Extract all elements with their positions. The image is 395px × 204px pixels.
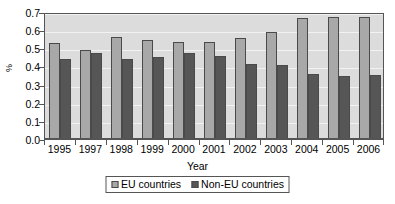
- y-tick-label: 0.7: [25, 8, 40, 19]
- bar: [370, 75, 381, 139]
- y-tick-label: 0.5: [25, 44, 40, 55]
- x-axis-tick-labels: 1995199719981999200020012002200320042005…: [44, 144, 384, 158]
- y-axis-title: %: [4, 64, 14, 72]
- x-tick-label: 1995: [48, 144, 71, 155]
- bar: [297, 18, 308, 139]
- bar-group: [76, 14, 107, 139]
- bar: [215, 56, 226, 139]
- bar: [266, 32, 277, 139]
- bar: [122, 59, 133, 139]
- legend-label: EU countries: [121, 179, 181, 190]
- y-tick-label: 0.0: [25, 135, 40, 146]
- bar: [60, 59, 71, 139]
- bar: [111, 37, 122, 140]
- bar: [91, 53, 102, 139]
- bar: [359, 17, 370, 139]
- bar-group: [354, 14, 385, 139]
- bar-group: [45, 14, 76, 139]
- bar-group: [292, 14, 323, 139]
- x-tick-label: 2004: [295, 144, 318, 155]
- x-tick-label: 2000: [171, 144, 194, 155]
- bar-group: [323, 14, 354, 139]
- x-tick-label: 2002: [233, 144, 256, 155]
- x-axis-title: Year: [0, 160, 395, 172]
- y-tick-label: 0.1: [25, 117, 40, 128]
- bar-group: [261, 14, 292, 139]
- bar: [339, 76, 350, 140]
- legend-swatch-icon: [111, 181, 118, 188]
- legend-label: Non-EU countries: [201, 179, 284, 190]
- bar: [328, 17, 339, 139]
- bar-group: [200, 14, 231, 139]
- x-tick-label: 2001: [202, 144, 225, 155]
- y-tick-label: 0.6: [25, 26, 40, 37]
- chart-legend: EU countriesNon-EU countries: [105, 176, 290, 193]
- bar-group: [107, 14, 138, 139]
- bar: [173, 42, 184, 139]
- bar: [235, 38, 246, 139]
- bar: [246, 64, 257, 139]
- bar-group: [138, 14, 169, 139]
- bar: [80, 50, 91, 139]
- x-tick-label: 2005: [326, 144, 349, 155]
- x-tick-label: 2003: [264, 144, 287, 155]
- bar-chart: % 0.00.10.20.30.40.50.60.7 1995199719981…: [0, 0, 395, 204]
- bar: [204, 42, 215, 139]
- bars-layer: [45, 14, 383, 139]
- x-tick-label: 2006: [357, 144, 380, 155]
- bar: [153, 57, 164, 139]
- legend-item: EU countries: [111, 179, 181, 190]
- x-axis-baseline: [45, 138, 383, 139]
- bar-group: [230, 14, 261, 139]
- bar: [184, 53, 195, 139]
- y-tick-label: 0.4: [25, 62, 40, 73]
- legend-swatch-icon: [191, 181, 198, 188]
- bar: [49, 43, 60, 139]
- y-tick-label: 0.2: [25, 98, 40, 109]
- x-tick-label: 1998: [110, 144, 133, 155]
- x-tick-label: 1999: [140, 144, 163, 155]
- y-tick-label: 0.3: [25, 80, 40, 91]
- x-tick-label: 1997: [79, 144, 102, 155]
- bar: [308, 74, 319, 139]
- bar: [142, 40, 153, 139]
- bar: [277, 65, 288, 139]
- bar-group: [169, 14, 200, 139]
- y-axis-tick-labels: 0.00.10.20.30.40.50.60.7: [14, 8, 40, 142]
- legend-item: Non-EU countries: [191, 179, 284, 190]
- plot-area: [44, 13, 384, 140]
